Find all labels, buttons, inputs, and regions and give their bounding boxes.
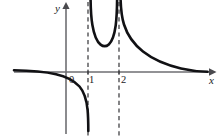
x-tick-label-2: 2 [121, 75, 126, 86]
x-tick-label-1: 1 [89, 75, 94, 86]
origin-tick-label: 0 [69, 75, 74, 86]
y-axis-arrowhead [62, 2, 69, 9]
plot-canvas [0, 0, 221, 138]
x-axis-label: x [209, 75, 214, 86]
function-graph-figure: y x 0 1 2 [0, 0, 221, 138]
curve-branch-middle [91, 0, 118, 46]
y-axis-label: y [55, 3, 60, 14]
curve-branch-left [14, 70, 88, 131]
curve-branch-right [121, 0, 208, 72]
